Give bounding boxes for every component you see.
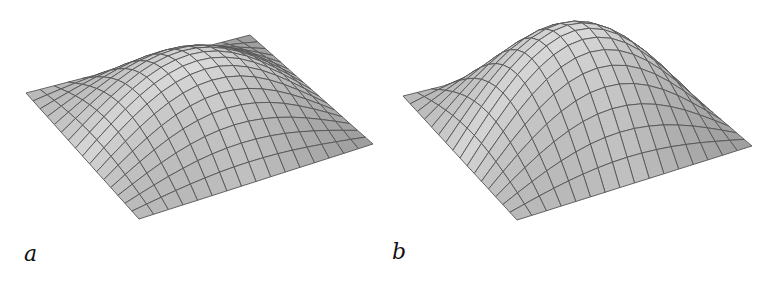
figure-panel-a: a xyxy=(0,0,390,281)
figure-panel-b: b xyxy=(380,0,773,281)
surface-plot-a xyxy=(0,0,390,281)
panel-label-a: a xyxy=(24,243,37,265)
surface-plot-b xyxy=(380,0,773,281)
panel-label-b: b xyxy=(392,241,406,263)
